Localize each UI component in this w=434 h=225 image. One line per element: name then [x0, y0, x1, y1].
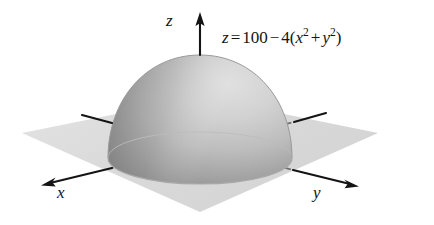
axis-y-line — [293, 170, 350, 184]
paraboloid-figure: z x y z=100−4(x2+y2) — [0, 0, 434, 225]
axis-label-z: z — [166, 12, 173, 29]
equation-constant: 100 — [242, 28, 268, 47]
equation-term1-exponent: 2 — [303, 26, 309, 39]
surface-equation-annotation: z=100−4(x2+y2) — [222, 28, 341, 48]
equation-lhs: z — [222, 28, 229, 47]
equation-minus: − — [268, 28, 282, 47]
equation-plus: + — [309, 28, 323, 47]
equation-term2-base: y — [322, 28, 330, 47]
equation-coefficient: 4 — [281, 28, 290, 47]
equation-equals: = — [229, 28, 243, 47]
equation-term1-base: x — [295, 28, 303, 47]
surface-diagram-svg — [0, 0, 434, 225]
equation-close-paren: ) — [336, 28, 342, 47]
axis-x-line — [50, 168, 112, 183]
paraboloid-surface — [108, 55, 292, 184]
axis-label-x: x — [57, 184, 65, 201]
axis-label-y: y — [313, 184, 321, 201]
